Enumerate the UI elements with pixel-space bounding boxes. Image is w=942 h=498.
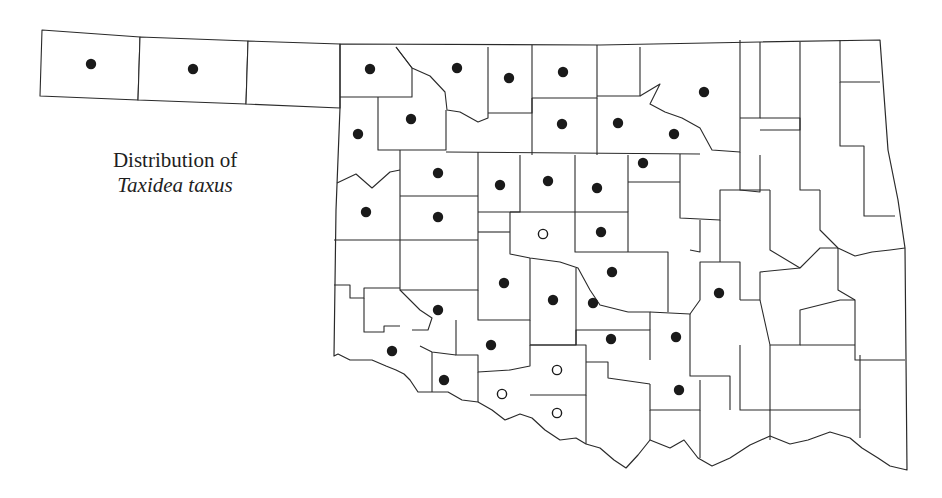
solid-dot-icon [452, 63, 462, 73]
solid-dot-icon [557, 119, 567, 129]
solid-dot-icon [548, 295, 558, 305]
solid-dot-icon [613, 118, 623, 128]
solid-dot-icon [606, 334, 616, 344]
solid-dot-icon [699, 87, 709, 97]
solid-dot-icon [674, 385, 684, 395]
solid-dot-icon [433, 168, 443, 178]
solid-dot-icon [714, 288, 724, 298]
solid-dot-icon [433, 212, 443, 222]
solid-dot-icon [499, 278, 509, 288]
solid-dot-icon [433, 305, 443, 315]
solid-dot-icon [638, 158, 648, 168]
solid-dot-icon [406, 114, 416, 124]
solid-dot-icon [607, 267, 617, 277]
solid-dot-icon [365, 64, 375, 74]
solid-dot-icon [353, 129, 363, 139]
solid-dot-icon [504, 73, 514, 83]
open-circle-icon [552, 365, 561, 374]
solid-dot-icon [387, 346, 397, 356]
solid-dot-icon [592, 183, 602, 193]
title-line-1: Distribution of [60, 148, 290, 173]
oklahoma-county-map [0, 0, 942, 498]
solid-dot-icon [558, 67, 568, 77]
solid-dot-icon [188, 64, 198, 74]
title-species-name: Taxidea taxus [60, 173, 290, 198]
solid-dot-icon [588, 298, 598, 308]
open-circle-icon [538, 229, 547, 238]
solid-dot-icon [543, 176, 553, 186]
open-circle-icon [552, 408, 561, 417]
solid-dot-icon [671, 332, 681, 342]
solid-dot-icon [495, 180, 505, 190]
open-circle-icon [497, 389, 506, 398]
solid-dot-icon [486, 340, 496, 350]
solid-dot-icon [669, 129, 679, 139]
solid-dot-icon [439, 375, 449, 385]
solid-dot-icon [596, 227, 606, 237]
solid-dot-icon [86, 59, 96, 69]
county-boundaries [40, 30, 907, 470]
solid-dot-icon [361, 207, 371, 217]
